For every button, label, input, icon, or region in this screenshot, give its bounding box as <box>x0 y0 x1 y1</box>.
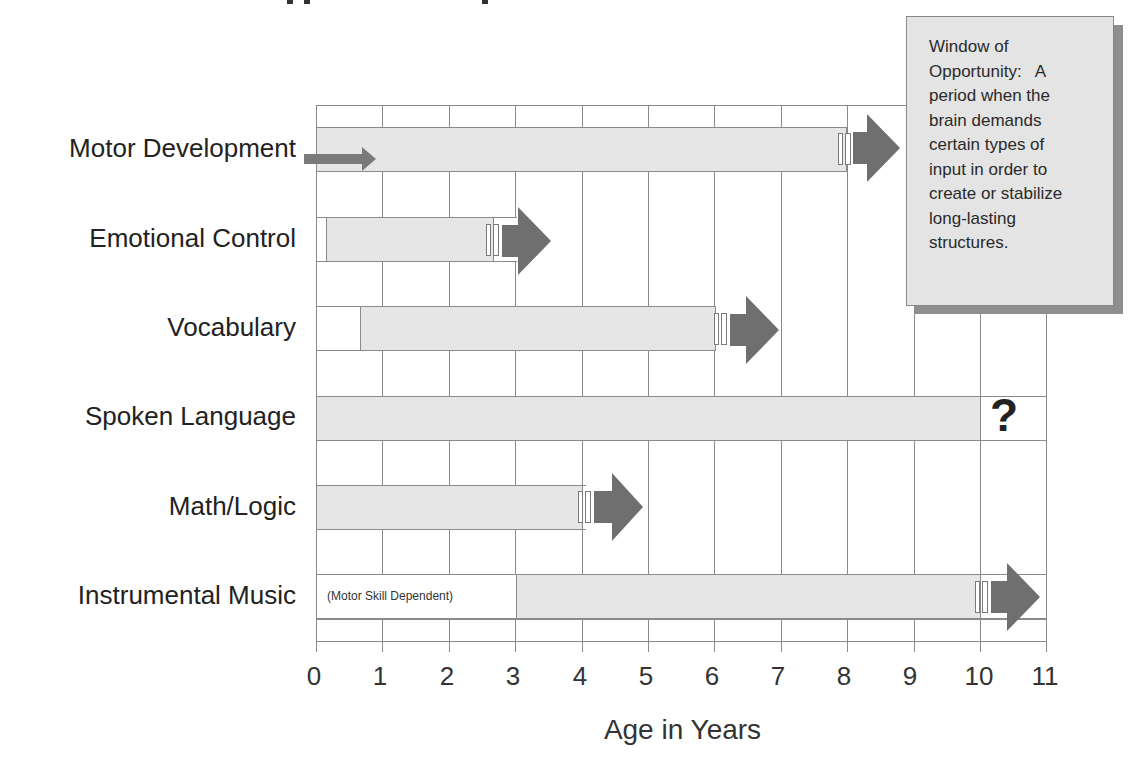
stripe <box>838 133 843 165</box>
x-tick-1: 1 <box>360 661 400 692</box>
start-arrow-icon <box>304 147 378 173</box>
stripe <box>845 133 851 165</box>
title-fragment <box>482 0 488 4</box>
bar-vocabulary <box>360 306 716 351</box>
row-label-math-logic: Math/Logic <box>169 491 296 521</box>
gridline-4 <box>582 105 583 652</box>
bar-emotional-control <box>326 217 494 262</box>
x-tick-11: 11 <box>1025 661 1065 692</box>
window-of-opportunity-callout: Window of Opportunity: A period when the… <box>906 16 1114 306</box>
x-tick-3: 3 <box>493 661 533 692</box>
x-tick-8: 8 <box>824 661 864 692</box>
bar-math-logic <box>316 485 583 530</box>
gridline-0 <box>316 105 317 652</box>
continues-arrow-icon <box>594 473 644 541</box>
x-tick-2: 2 <box>427 661 467 692</box>
continues-arrow-icon <box>730 296 780 364</box>
music-row-bottom <box>316 619 1046 620</box>
gridline-6 <box>714 105 715 652</box>
motor-skill-note: (Motor Skill Dependent) <box>327 589 453 603</box>
stripe <box>585 491 591 523</box>
stripe <box>493 224 499 256</box>
gridline-1 <box>382 105 383 652</box>
gridline-2 <box>449 105 450 652</box>
gridline-3 <box>515 105 516 652</box>
bar-spoken-language <box>316 396 981 441</box>
stripe <box>486 224 491 256</box>
callout-line: certain types of <box>929 133 1113 158</box>
bar-motor-development <box>316 127 847 172</box>
row-label-spoken-language: Spoken Language <box>85 401 296 431</box>
x-tick-4: 4 <box>560 661 600 692</box>
continues-arrow-icon <box>502 207 552 275</box>
stripe <box>975 581 980 613</box>
stripe <box>721 313 727 345</box>
x-tick-5: 5 <box>626 661 666 692</box>
callout-line: input in order to <box>929 158 1113 183</box>
x-tick-10: 10 <box>959 661 999 692</box>
gridline-11-spoken <box>1046 396 1047 441</box>
callout-line: Opportunity: A <box>929 60 1113 85</box>
title-fragment <box>287 0 293 4</box>
x-tick-7: 7 <box>758 661 798 692</box>
stripe <box>982 581 988 613</box>
gridline-8 <box>847 105 848 652</box>
continues-arrow-icon <box>991 563 1041 631</box>
gridline-7 <box>781 105 782 652</box>
x-tick-9: 9 <box>890 661 930 692</box>
x-axis-title: Age in Years <box>540 714 825 746</box>
row-label-vocabulary: Vocabulary <box>167 312 296 342</box>
x-axis-line <box>316 641 1046 642</box>
question-mark: ? <box>990 388 1018 442</box>
row-label-motor-development: Motor Development <box>69 133 296 163</box>
row-label-instrumental-music: Instrumental Music <box>78 580 296 610</box>
callout-line: long-lasting <box>929 207 1113 232</box>
callout-line: create or stabilize <box>929 182 1113 207</box>
x-tick-0: 0 <box>294 661 334 692</box>
stripe <box>714 313 719 345</box>
continues-arrow-icon <box>853 114 901 182</box>
gridline-11-music <box>1046 574 1047 619</box>
bar-instrumental-music <box>516 574 981 619</box>
row-label-emotional-control: Emotional Control <box>89 223 296 253</box>
title-fragment <box>304 0 310 4</box>
callout-line: brain demands <box>929 109 1113 134</box>
callout-line: period when the <box>929 84 1113 109</box>
gridline-5 <box>648 105 649 652</box>
x-tick-6: 6 <box>692 661 732 692</box>
stripe <box>578 491 583 523</box>
callout-line: Window of <box>929 35 1113 60</box>
callout-line: structures. <box>929 231 1113 256</box>
